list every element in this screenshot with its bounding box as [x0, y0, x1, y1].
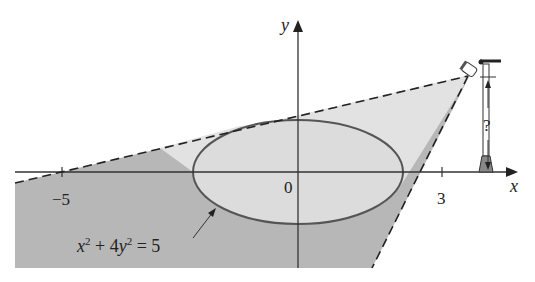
lamp-head-icon: [461, 61, 478, 77]
x-axis-label: x: [509, 176, 518, 196]
tick-label-3: 3: [437, 189, 446, 208]
y-axis-label: y: [279, 15, 289, 35]
height-label: ?: [483, 116, 491, 135]
tick-label-neg5: −5: [52, 190, 70, 209]
y-axis-arrow-icon: [293, 20, 303, 32]
origin-label: 0: [284, 178, 293, 197]
diagram: ? y x 0 −5 3 x2 + 4y2 = 5: [0, 0, 535, 282]
